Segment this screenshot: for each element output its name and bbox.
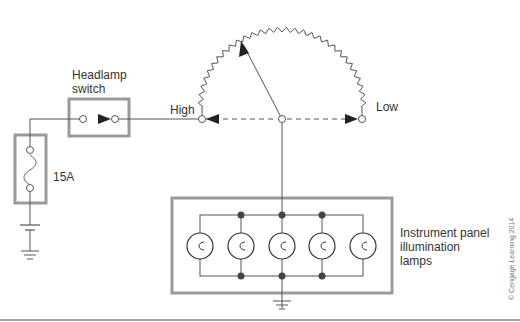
headlamp-dimmer-circuit-diagram: [0, 0, 520, 322]
switch-arrow-icon: [98, 114, 111, 124]
fuse-element: [24, 155, 36, 185]
ground-symbol-battery: [21, 251, 39, 259]
switch-terminal-in: [80, 116, 87, 123]
instrument-panel-label: Instrument panel illumination lamps: [400, 226, 489, 268]
lamp-2: [228, 233, 254, 259]
fuse-terminal-top: [27, 147, 34, 154]
high-terminal: [199, 116, 206, 123]
lamp-3: [269, 233, 295, 259]
battery-symbol: [20, 225, 40, 230]
high-label: High: [170, 103, 195, 117]
lamp-1: [187, 233, 213, 259]
wiper-pivot: [279, 116, 286, 123]
switch-terminal-out: [112, 116, 119, 123]
rheostat-wiper: [244, 46, 282, 119]
copyright-text: © Cengage Learning 2014: [508, 218, 515, 300]
headlamp-switch-label: Headlamp switch: [72, 68, 127, 96]
fuse-rating-label: 15A: [53, 170, 74, 184]
lamps: [187, 233, 376, 259]
fuse-terminal-bottom: [27, 185, 34, 192]
wiper-arrow-icon: [239, 41, 249, 57]
low-terminal: [359, 116, 366, 123]
low-label: Low: [376, 100, 398, 114]
arrow-left-icon: [206, 114, 219, 124]
lamp-5: [350, 233, 376, 259]
rheostat-resistance-arc: [198, 27, 366, 107]
lamp-4: [309, 233, 335, 259]
arrow-right-icon: [345, 114, 358, 124]
